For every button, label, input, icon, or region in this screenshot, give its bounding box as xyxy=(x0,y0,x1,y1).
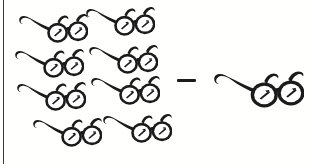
eyeglasses-icon xyxy=(16,8,88,48)
minus-operator xyxy=(177,79,196,82)
eyeglasses-icon xyxy=(100,108,172,148)
eyeglasses-icon xyxy=(210,64,304,114)
eyeglasses-icon xyxy=(83,1,155,41)
pictograph-canvas: minus 8 1 Eyeglasses subtraction pictogr… xyxy=(0,0,314,164)
eyeglasses-icon xyxy=(88,70,160,110)
left-margin-rule xyxy=(3,0,4,164)
eyeglasses-icon xyxy=(30,112,102,152)
eyeglasses-icon xyxy=(14,76,86,116)
